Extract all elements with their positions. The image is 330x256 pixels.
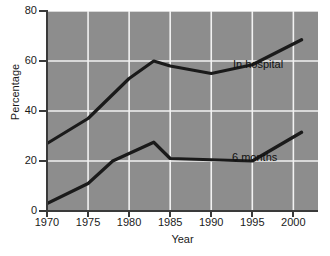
y-tick	[39, 60, 47, 62]
x-tick-label: 1970	[27, 216, 67, 228]
chart-figure: In hospital 6 months 020406080 197019751…	[0, 0, 330, 256]
y-tick-label: 80	[3, 5, 37, 16]
series-label-6-months: 6 months	[232, 151, 277, 163]
x-tick-label: 1980	[109, 216, 149, 228]
series-line-0	[47, 40, 302, 144]
y-tick-label: 20	[3, 155, 37, 166]
x-tick-label: 1975	[68, 216, 108, 228]
y-tick	[39, 110, 47, 112]
series-line-1	[47, 132, 302, 203]
y-tick-label: 0	[3, 205, 37, 216]
x-tick-label: 1990	[191, 216, 231, 228]
x-tick-label: 1995	[232, 216, 272, 228]
y-tick	[39, 10, 47, 12]
x-tick-label: 1985	[150, 216, 190, 228]
y-tick	[39, 160, 47, 162]
x-axis-title: Year	[47, 233, 318, 245]
plot-area: In hospital 6 months	[47, 11, 318, 211]
series-lines	[47, 11, 318, 211]
series-label-in-hospital: In hospital	[233, 58, 283, 70]
y-axis-title: Percentage	[9, 47, 21, 137]
x-tick-label: 2000	[273, 216, 313, 228]
